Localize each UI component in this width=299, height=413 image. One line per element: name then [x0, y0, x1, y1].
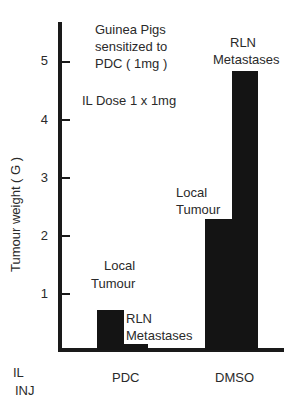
y-axis: [58, 22, 62, 352]
x-category-pdc: PDC: [112, 370, 139, 385]
y-tick-label-5: 5: [28, 53, 48, 68]
title-line-3: PDC ( 1mg ): [95, 56, 167, 72]
y-tick-5: [62, 61, 70, 63]
pdc-rln-label-1: RLN: [126, 311, 152, 327]
y-tick-label-4: 4: [28, 112, 48, 127]
dmso-local-label-1: Local: [176, 185, 207, 201]
bar-dmso-rln-metastases: [232, 71, 258, 350]
y-tick-1: [62, 293, 70, 295]
y-tick-3: [62, 177, 70, 179]
bar-pdc-local-tumour: [97, 310, 124, 350]
pdc-local-label-1: Local: [104, 258, 135, 274]
title-line-1: Guinea Pigs: [95, 22, 166, 38]
y-axis-label: Tumour weight ( G ): [8, 157, 23, 272]
dmso-rln-label-2: Metastases: [213, 52, 279, 68]
pdc-local-label-2: Tumour: [91, 276, 135, 292]
pdc-rln-label-2: Metastases: [126, 328, 192, 344]
y-tick-label-1: 1: [28, 286, 48, 301]
x-category-dmso: DMSO: [215, 370, 254, 385]
y-tick-2: [62, 235, 70, 237]
x-axis-label-line-1: IL: [13, 365, 24, 380]
dose-label: IL Dose 1 x 1mg: [82, 93, 176, 109]
y-tick-label-3: 3: [28, 170, 48, 185]
dmso-local-label-2: Tumour: [176, 202, 220, 218]
x-axis-label-line-2: INJ: [15, 383, 35, 398]
y-tick-4: [62, 119, 70, 121]
bar-dmso-local-tumour: [205, 219, 232, 350]
dmso-rln-label-1: RLN: [230, 35, 256, 51]
title-line-2: sensitized to: [95, 39, 167, 55]
y-tick-label-2: 2: [28, 228, 48, 243]
bar-pdc-rln-metastases: [124, 344, 148, 350]
